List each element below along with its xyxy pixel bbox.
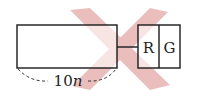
dimension-label: 10n: [54, 72, 83, 90]
dimension-arc: [18, 69, 48, 81]
diagram-canvas: R G 10n: [0, 0, 197, 100]
label-r: R: [143, 39, 155, 57]
label-g: G: [164, 39, 176, 57]
long-rectangle: [17, 25, 117, 68]
